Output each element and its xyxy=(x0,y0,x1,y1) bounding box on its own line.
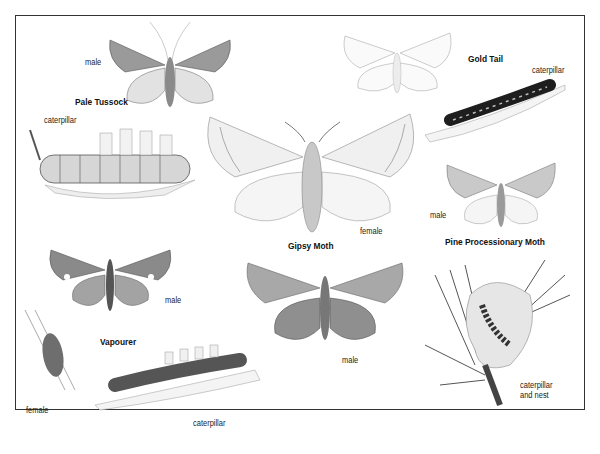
gipsy-moth-female-label: female xyxy=(360,226,382,236)
vapourer-female-illustration xyxy=(20,310,80,395)
vapourer-male-moth-illustration xyxy=(48,245,173,315)
gipsy-moth-male-label: male xyxy=(342,355,358,365)
pine-processionary-male-label: male xyxy=(430,210,446,220)
gipsy-moth-title: Gipsy Moth xyxy=(288,240,334,251)
pale-tussock-male-label: male xyxy=(85,57,101,67)
vapourer-male-label: male xyxy=(165,295,181,305)
gipsy-moth-female-illustration xyxy=(205,112,420,242)
pine-processionary-nest-illustration xyxy=(415,255,580,405)
vapourer-caterpillar-illustration xyxy=(95,340,265,410)
gold-tail-caterpillar-illustration xyxy=(425,80,570,145)
vapourer-female-label: female xyxy=(26,405,48,415)
pale-tussock-caterpillar-label: caterpillar xyxy=(44,115,76,125)
gold-tail-caterpillar-label: caterpillar xyxy=(532,65,564,75)
gipsy-moth-male-illustration xyxy=(245,258,405,358)
pine-processionary-nest-label-line2: and nest xyxy=(520,390,549,400)
pale-tussock-caterpillar-illustration xyxy=(25,125,205,200)
vapourer-caterpillar-label: caterpillar xyxy=(193,418,225,428)
pine-processionary-nest-label-line1: caterpillar xyxy=(520,380,552,390)
pine-processionary-male-moth-illustration xyxy=(445,160,557,230)
pale-tussock-title: Pale Tussock xyxy=(75,96,128,107)
pine-processionary-title: Pine Processionary Moth xyxy=(445,236,545,247)
gold-tail-title: Gold Tail xyxy=(468,53,503,64)
